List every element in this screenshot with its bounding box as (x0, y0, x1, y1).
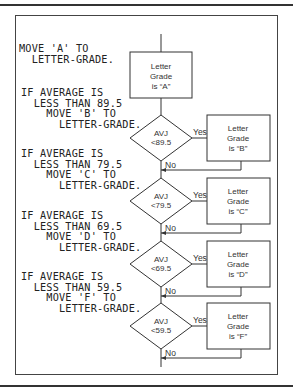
box-text: Letter (228, 250, 249, 259)
flowchart: Letter Grade is “A” AVJ <89.5 Yes No Let… (0, 0, 293, 390)
no-label: No (165, 160, 176, 170)
box-text: is “B” (229, 144, 248, 153)
yes-label: Yes (193, 127, 207, 137)
no-label: No (165, 223, 176, 233)
yes-label: Yes (193, 190, 207, 200)
box-text: is “A” (152, 82, 171, 91)
no-label: No (165, 348, 176, 358)
decision-text: AVJ (154, 317, 168, 326)
yes-label: Yes (193, 253, 207, 263)
no-label: No (165, 286, 176, 296)
box-text: Grade (227, 260, 250, 269)
decision-text: <59.5 (151, 326, 172, 335)
yes-label: Yes (193, 315, 207, 325)
box-text: Letter (228, 312, 249, 321)
box-text: Grade (150, 72, 173, 81)
box-text: is “F” (229, 332, 248, 341)
box-text: is “C” (228, 207, 247, 216)
box-text: Grade (227, 134, 250, 143)
box-text: Letter (151, 62, 172, 71)
decision-text: <89.5 (151, 138, 172, 147)
box-text: Letter (228, 124, 249, 133)
start-box-a: Letter Grade is “A” (150, 62, 173, 91)
decision-text: <69.5 (151, 264, 172, 273)
decision-text: AVJ (154, 129, 168, 138)
box-text: is “D” (228, 270, 247, 279)
decision-text: <79.5 (151, 201, 172, 210)
box-text: Grade (227, 197, 250, 206)
box-text: Grade (227, 322, 250, 331)
decision-text: AVJ (154, 255, 168, 264)
decision-text: AVJ (154, 192, 168, 201)
box-text: Letter (228, 187, 249, 196)
